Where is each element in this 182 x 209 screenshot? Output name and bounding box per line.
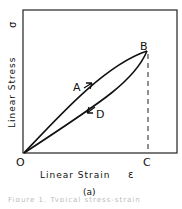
loading-curve (24, 51, 147, 153)
y-axis-symbol: σ (7, 21, 18, 28)
stress-strain-diagram: A D B O C Linear Stress σ Linear Strain … (0, 0, 182, 209)
point-label-c: C (143, 156, 151, 169)
point-label-o: O (16, 156, 25, 169)
unloading-curve (24, 51, 147, 153)
x-axis-label: Linear Strain (40, 170, 111, 180)
point-label-d: D (96, 108, 104, 121)
x-axis-symbol: ε (128, 169, 133, 180)
point-label-a: A (73, 81, 81, 94)
plot-frame (23, 10, 177, 153)
figure-caption-cropped: Figure 1. Typical stress-strain (8, 196, 178, 202)
y-axis-label: Linear Stress (7, 57, 17, 129)
point-label-b: B (140, 40, 148, 53)
